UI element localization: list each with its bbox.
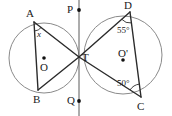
label-point-t: T <box>82 52 89 63</box>
segment-a-t <box>34 22 79 57</box>
dot-p <box>77 8 81 12</box>
angle-label-50: 50° <box>117 79 130 88</box>
label-point-a: A <box>26 8 34 19</box>
dot-q <box>77 99 81 103</box>
label-center-o: O <box>40 62 48 73</box>
label-center-o-prime: O' <box>118 48 128 59</box>
label-point-p: P <box>67 4 73 15</box>
angle-label-x: x <box>37 30 41 39</box>
label-point-c: C <box>137 101 144 112</box>
label-point-b: B <box>33 94 40 105</box>
segment-d-c <box>130 12 141 97</box>
angle-label-55: 55° <box>117 26 130 35</box>
arc-angle-50 <box>130 84 139 90</box>
label-point-q: Q <box>67 95 75 106</box>
segment-c-t <box>79 57 141 97</box>
dot-o <box>42 56 46 60</box>
geometry-diagram: A B C D T P Q O O' x 55° 50° <box>0 0 172 116</box>
label-point-d: D <box>124 0 132 11</box>
arc-angle-55 <box>122 19 132 23</box>
